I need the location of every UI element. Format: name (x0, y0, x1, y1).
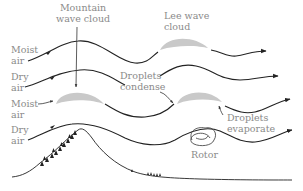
label-layer-dry-1: Dry air (11, 71, 29, 93)
label-line: Lee wave (164, 10, 209, 21)
label-line: wave cloud (56, 13, 110, 24)
label-line: Dry (11, 124, 29, 135)
airflow-line-1 (28, 41, 158, 63)
pointer-droplets-evaporate (219, 106, 223, 115)
lee-wave-cloud-lower (177, 92, 222, 104)
label-layer-moist-2: Moist air (11, 98, 38, 120)
label-droplets-evaporate: Droplets evaporate (227, 112, 275, 134)
label-line: air (11, 55, 38, 66)
label-layer-dry-2: Dry air (11, 124, 29, 146)
label-line: Moist (11, 98, 38, 109)
label-mountain-wave-cloud: Mountain wave cloud (56, 2, 110, 24)
label-line: Droplets (227, 112, 275, 123)
label-line: condense (120, 81, 165, 92)
pointer-moist-air (38, 101, 53, 104)
label-line: evaporate (227, 123, 275, 134)
label-line: air (11, 135, 29, 146)
label-line: air (11, 109, 38, 120)
mountain-profile (12, 129, 292, 180)
mountain-wave-cloud (56, 93, 104, 104)
label-line: Dry (11, 71, 29, 82)
pointer-mountain-wave-cloud (76, 27, 77, 87)
lee-wave-cloud-upper (160, 39, 208, 50)
label-line: cloud (164, 21, 209, 32)
label-line: air (11, 82, 29, 93)
lee-wave-diagram (0, 0, 303, 191)
label-rotor: Rotor (191, 149, 218, 160)
label-line: Moist (11, 44, 38, 55)
airflow-line-1b (211, 50, 266, 56)
pointer-droplets-condense (160, 92, 173, 103)
label-layer-moist-1: Moist air (11, 44, 38, 66)
label-lee-wave-cloud: Lee wave cloud (164, 10, 209, 32)
label-line: Mountain (56, 2, 110, 13)
label-line: Droplets (120, 70, 165, 81)
label-droplets-condense: Droplets condense (120, 70, 165, 92)
trees-on-slope (40, 130, 77, 166)
